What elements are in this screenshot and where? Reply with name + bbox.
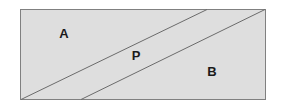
figure-container: A P B [0,0,285,109]
region-label-a: A [59,26,69,41]
region-label-b: B [207,64,216,79]
region-label-p: P [132,48,141,63]
geometry-diagram: A P B [0,0,285,109]
outer-rectangle [21,10,266,100]
